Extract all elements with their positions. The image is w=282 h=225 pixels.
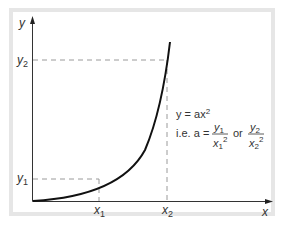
fraction-1-numerator: y1 xyxy=(213,121,225,135)
y1-label: y1 xyxy=(16,171,28,187)
x-axis-arrow-icon xyxy=(265,199,273,204)
y2-label: y2 xyxy=(16,53,28,69)
fraction-2-numerator: y2 xyxy=(249,121,261,135)
y-axis-label: y xyxy=(18,16,26,30)
x1-label: x1 xyxy=(93,203,105,219)
equation-or: or xyxy=(233,127,243,139)
x2-label: x2 xyxy=(161,203,173,219)
parabola-curve xyxy=(33,42,170,201)
axes xyxy=(33,22,269,202)
equation-line-1: y = ax2 xyxy=(176,107,211,120)
parabola-diagram: y x y2 y1 x1 x2 y = ax2 i.e. a = y1 x12 … xyxy=(0,0,282,225)
equation-line-2-prefix: i.e. a = xyxy=(176,127,209,139)
equation-annotation: y = ax2 i.e. a = y1 x12 or y2 x22 xyxy=(176,107,264,151)
x-axis-label: x xyxy=(261,205,269,219)
y-axis-arrow-icon xyxy=(30,16,35,24)
guide-lines xyxy=(33,60,167,201)
fraction-2-denominator: x22 xyxy=(248,135,264,151)
fraction-1-denominator: x12 xyxy=(212,135,228,151)
